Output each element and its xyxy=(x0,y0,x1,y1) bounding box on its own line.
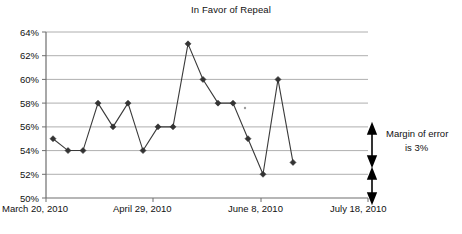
series-markers xyxy=(50,41,296,177)
y-tick-label-60: 60% xyxy=(20,74,40,85)
series-marker xyxy=(95,100,101,106)
x-tickmarks xyxy=(46,198,368,202)
series-marker xyxy=(125,100,131,106)
x-tick-label-july: July 18, 2010 xyxy=(330,203,387,214)
series-marker xyxy=(245,136,251,142)
series-marker xyxy=(140,148,146,154)
series-marker xyxy=(275,76,281,82)
y-tick-label-56: 56% xyxy=(20,121,40,132)
margin-of-error-annotation: Margin of error is 3% xyxy=(368,124,448,203)
series-line-in-favor-of-repeal xyxy=(53,44,293,174)
y-tick-label-64: 64% xyxy=(20,27,40,38)
series-marker xyxy=(290,159,296,165)
series-marker xyxy=(260,171,266,177)
y-tick-label-58: 58% xyxy=(20,98,40,109)
y-tick-label-62: 62% xyxy=(20,50,40,61)
y-tick-labels: 64% 62% 60% 58% 56% 54% 52% 50% xyxy=(20,27,40,204)
y-tick-label-54: 54% xyxy=(20,145,40,156)
moe-arrow-lower-head-bottom xyxy=(368,193,376,203)
series-marker xyxy=(200,76,206,82)
series-marker xyxy=(230,100,236,106)
chart-plot-area: 64% 62% 60% 58% 56% 54% 52% 50% March 20… xyxy=(0,0,462,234)
chart-container: In Favor of Repeal xyxy=(0,0,462,234)
series-marker xyxy=(80,148,86,154)
moe-arrow-upper-head-bottom xyxy=(368,156,376,166)
series-marker xyxy=(110,124,116,130)
margin-of-error-label-line2: is 3% xyxy=(405,142,429,153)
series-marker xyxy=(215,100,221,106)
y-tick-label-50: 50% xyxy=(20,193,40,204)
x-tick-label-june: June 8, 2010 xyxy=(228,203,283,214)
moe-arrow-upper-head-top xyxy=(368,124,376,134)
stray-dot-artifact xyxy=(244,107,246,109)
x-tick-labels: March 20, 2010 April 29, 2010 June 8, 20… xyxy=(2,203,387,214)
y-tick-label-52: 52% xyxy=(20,169,40,180)
gridlines xyxy=(46,32,368,174)
moe-arrow-lower-head-top xyxy=(368,169,376,179)
x-tick-label-april: April 29, 2010 xyxy=(113,203,172,214)
series-marker xyxy=(170,124,176,130)
series-marker xyxy=(185,41,191,47)
x-tick-label-march: March 20, 2010 xyxy=(2,203,68,214)
series-marker xyxy=(155,124,161,130)
margin-of-error-label-line1: Margin of error xyxy=(386,128,448,139)
